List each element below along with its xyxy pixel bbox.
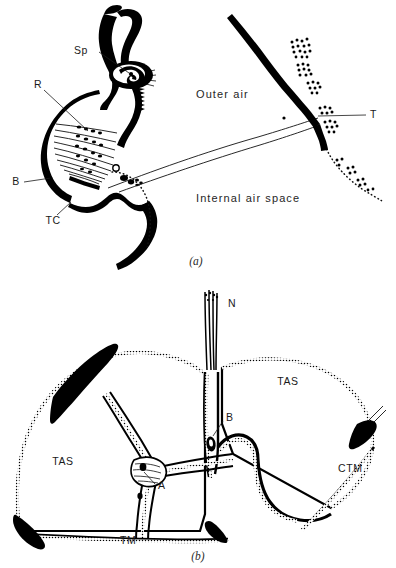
label-outer-air: Outer air [196, 88, 249, 100]
panel-b: N B A CTM TM TAS TAS (b) [0, 284, 396, 568]
panel-a-background [0, 0, 396, 284]
label-b: B [12, 175, 20, 187]
panel-a: Sp R B TC T Outer air Internal air space… [0, 0, 396, 284]
label-ctm: CTM [338, 462, 363, 474]
label-r: R [34, 78, 42, 90]
label-a: A [158, 479, 166, 491]
label-b-b: B [226, 411, 234, 423]
figure-root: Sp R B TC T Outer air Internal air space… [0, 0, 396, 568]
label-tc: TC [45, 214, 60, 226]
caption-a: (a) [189, 255, 203, 268]
label-tm: TM [120, 534, 136, 546]
label-internal-air-space: Internal air space [196, 192, 300, 204]
label-tas-right: TAS [277, 375, 298, 387]
label-sp: Sp [74, 44, 88, 56]
label-t: T [370, 108, 377, 120]
caption-b: (b) [191, 550, 205, 563]
label-n: N [228, 297, 236, 309]
leader-b-dot [50, 177, 53, 180]
label-tas-left: TAS [52, 455, 73, 467]
